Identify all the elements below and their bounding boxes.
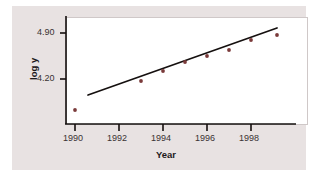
data-point xyxy=(183,60,187,64)
x-tick-label-1994: 1994 xyxy=(151,133,171,143)
data-point xyxy=(249,38,253,42)
x-tick-label-1996: 1996 xyxy=(195,133,215,143)
fitted-line xyxy=(88,28,277,95)
data-point xyxy=(227,48,231,52)
y-axis-ticks xyxy=(60,33,66,79)
data-point xyxy=(205,54,209,58)
y-tick-label-490: 4.90 xyxy=(37,27,55,37)
y-axis-title: log y xyxy=(28,58,39,80)
data-point xyxy=(139,79,143,83)
data-point xyxy=(275,33,279,37)
data-point xyxy=(73,108,77,112)
chart-figure: 4.90 4.20 1990 1992 1994 1996 1998 Year … xyxy=(0,0,319,176)
x-tick-label-1992: 1992 xyxy=(107,133,127,143)
data-points xyxy=(73,33,279,112)
y-tick-label-420: 4.20 xyxy=(37,73,55,83)
x-axis-ticks xyxy=(75,124,251,131)
x-tick-label-1990: 1990 xyxy=(63,133,83,143)
x-axis-title: Year xyxy=(156,149,176,160)
x-tick-label-1998: 1998 xyxy=(239,133,259,143)
data-point xyxy=(161,69,165,73)
